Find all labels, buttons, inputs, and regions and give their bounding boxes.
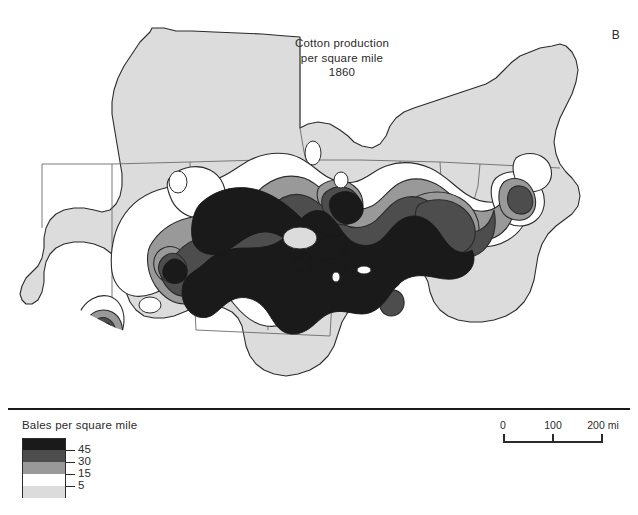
legend-swatch-30	[22, 450, 66, 462]
panel-divider	[8, 408, 630, 410]
legend-swatch-0	[22, 486, 66, 498]
scale-tick-0	[503, 434, 505, 443]
legend-title: Bales per square mile	[22, 419, 322, 431]
legend-swatch-15	[22, 462, 66, 474]
legend-tick-line	[66, 462, 75, 463]
scale-bar: 0 100 200 mi	[503, 419, 611, 443]
legend-color-ramp: 45 30 15 5	[22, 438, 66, 498]
legend-tick-label: 5	[78, 480, 84, 492]
map-area: Cotton production per square mile 1860 B	[0, 0, 638, 408]
panel-letter: B	[612, 28, 620, 42]
legend-tick-line	[66, 450, 75, 451]
legend: Bales per square mile 45 30 15 5	[22, 419, 322, 498]
figure-panel: Cotton production per square mile 1860 B…	[0, 0, 638, 515]
legend-swatch-5	[22, 474, 66, 486]
legend-tick-line	[66, 486, 75, 487]
legend-tick-label: 45	[78, 444, 91, 456]
scale-tick-100	[552, 434, 554, 443]
legend-tick-label: 30	[78, 456, 91, 468]
legend-swatch-45	[22, 438, 66, 450]
legend-tick-line	[66, 474, 75, 475]
scale-label-0: 0	[500, 419, 506, 431]
scale-bar-graphic	[503, 433, 611, 443]
legend-tick-label: 15	[78, 468, 91, 480]
scale-bar-labels: 0 100 200 mi	[503, 419, 611, 433]
scale-label-200: 200 mi	[587, 419, 619, 431]
map-title: Cotton production per square mile 1860	[262, 36, 422, 80]
scale-tick-200	[601, 434, 603, 443]
scale-label-100: 100	[544, 419, 562, 431]
